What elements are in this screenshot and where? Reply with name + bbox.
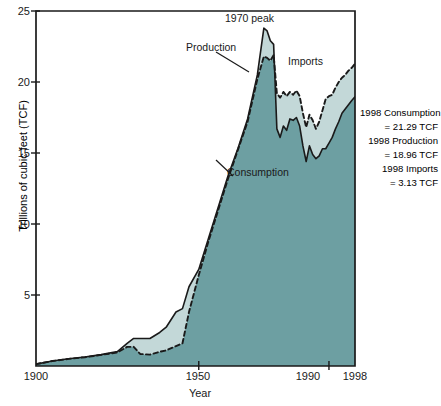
y-tick-label-25: 25 <box>8 5 30 18</box>
side-note-block: 1998 Consumption = 21.29 TCF 1998 Produc… <box>360 106 438 189</box>
y-tick-label-5: 5 <box>8 289 30 302</box>
x-tick-label-1950: 1950 <box>178 370 218 383</box>
side-note-line-1: 1998 Consumption <box>360 106 438 120</box>
side-note-line-6: = 3.13 TCF <box>360 176 438 190</box>
side-note-line-3: 1998 Production <box>360 134 438 148</box>
y-axis-title: Trillions of cubic feet (TCF) <box>17 91 29 241</box>
area-fills <box>36 28 355 366</box>
production-annotation-label: Production <box>186 41 236 54</box>
chart-plot-area <box>0 0 441 406</box>
x-tick-label-1990: 1990 <box>288 370 328 383</box>
peak-annotation-label: 1970 peak <box>225 12 274 25</box>
side-note-line-2: = 21.29 TCF <box>360 120 438 134</box>
x-tick-label-1998: 1998 <box>335 370 375 383</box>
production-leader-line <box>216 52 249 72</box>
consumption-annotation-label: Consumption <box>227 166 289 179</box>
gas-production-consumption-chart: 25 20 15 10 5 Trillions of cubic feet (T… <box>0 0 441 406</box>
side-note-line-5: 1998 Imports <box>360 162 438 176</box>
side-note-line-4: = 18.96 TCF <box>360 148 438 162</box>
x-axis-title: Year <box>180 387 220 400</box>
consumption-area-fill <box>36 55 355 366</box>
x-tick-label-1900: 1900 <box>16 370 56 383</box>
y-tick-label-20: 20 <box>8 76 30 89</box>
imports-annotation-label: Imports <box>288 55 323 68</box>
